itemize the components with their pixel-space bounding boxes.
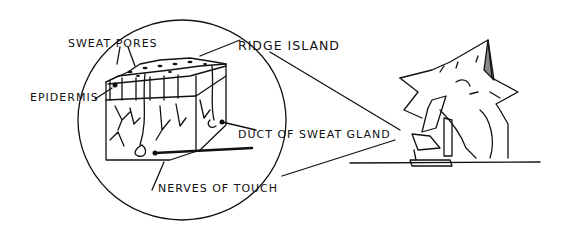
illustration — [0, 0, 564, 231]
label-epidermis: EPIDERMIS — [30, 91, 99, 104]
skin-block — [106, 58, 252, 160]
label-ridge-island: RIDGE ISLAND — [238, 38, 340, 53]
view-cone-lines — [270, 52, 400, 176]
table — [350, 162, 540, 163]
microscope — [410, 96, 452, 166]
cat — [400, 40, 518, 158]
label-sweat-pores: SWEAT PORES — [68, 37, 158, 50]
label-duct-of-sweat-gland: DUCT OF SWEAT GLAND — [238, 128, 391, 141]
label-nerves-of-touch: NERVES OF TOUCH — [158, 182, 278, 195]
